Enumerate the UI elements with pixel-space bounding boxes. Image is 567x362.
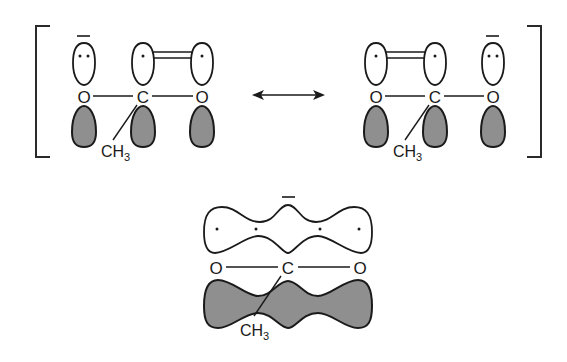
electron-dot [216, 228, 219, 231]
electron-dot [434, 55, 437, 58]
p-orbital-top-o-left [365, 43, 387, 85]
resonance-diagram: O C O CH3 O C O CH3 [0, 0, 567, 362]
electron-dot [201, 55, 204, 58]
electron-dot [375, 55, 378, 58]
p-orbital-top-c [424, 43, 446, 85]
p-orbital-bottom-c [423, 106, 447, 147]
electron-dot [255, 228, 258, 231]
p-orbital-bottom-o-right [481, 106, 505, 147]
resonance-hybrid: O C O CH3 [204, 197, 372, 342]
atom-carbon: C [282, 259, 294, 278]
p-orbital-top-o-right [191, 43, 213, 85]
atom-oxygen: O [353, 259, 366, 278]
atom-oxygen: O [77, 88, 90, 107]
p-orbital-bottom-o-right [190, 106, 214, 147]
atom-oxygen: O [486, 88, 499, 107]
electron-dot [79, 55, 82, 58]
methyl-label: CH3 [240, 322, 269, 342]
resonance-structure-left: O C O CH3 [72, 36, 214, 163]
atom-oxygen: O [209, 259, 222, 278]
electron-dot [358, 228, 361, 231]
p-orbital-top-c [132, 43, 154, 85]
right-bracket [527, 26, 541, 157]
electron-dot [319, 228, 322, 231]
p-orbital-top-o-right [482, 43, 504, 85]
p-orbital-bottom-o-left [72, 106, 96, 147]
p-orbital-top-o-left [73, 43, 95, 85]
electron-dot [142, 55, 145, 58]
methyl-label: CH3 [393, 143, 422, 163]
electron-dot [87, 55, 90, 58]
p-orbital-bottom-c [131, 106, 155, 147]
atom-oxygen: O [369, 88, 382, 107]
atom-carbon: C [137, 88, 149, 107]
methyl-label: CH3 [101, 143, 130, 163]
atom-carbon: C [429, 88, 441, 107]
delocalized-orbital-bottom [204, 280, 372, 328]
left-bracket [36, 26, 50, 157]
resonance-arrow [252, 90, 325, 100]
delocalized-orbital-top [204, 205, 372, 253]
diagram-canvas: O C O CH3 O C O CH3 [0, 0, 567, 362]
electron-dot [496, 55, 499, 58]
electron-dot [488, 55, 491, 58]
resonance-structure-right: O C O CH3 [364, 36, 505, 163]
p-orbital-bottom-o-left [364, 106, 388, 147]
atom-oxygen: O [195, 88, 208, 107]
